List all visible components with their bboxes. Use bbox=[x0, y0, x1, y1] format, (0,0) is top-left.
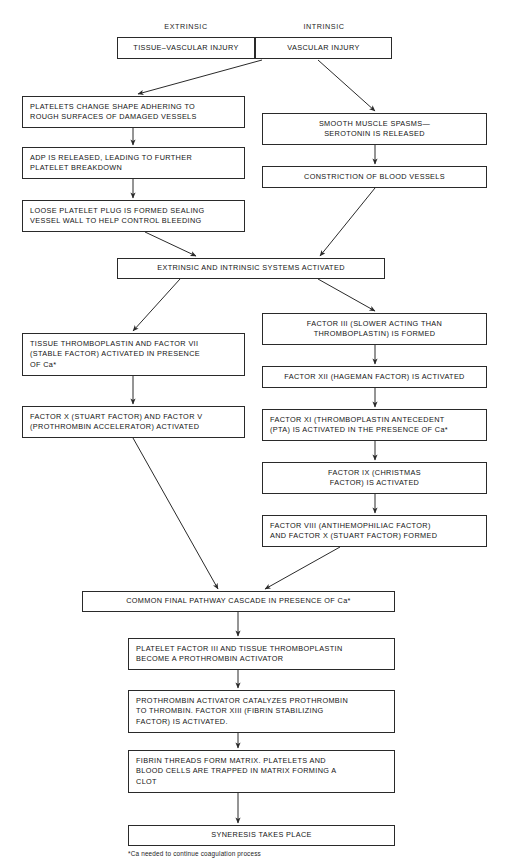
node-text-line: THROMBOPLASTIN) IS FORMED bbox=[314, 329, 436, 339]
column-header-intrinsic: INTRINSIC bbox=[255, 22, 393, 31]
node-factor-viii-and-factor-x-formed: FACTOR VIII (ANTIHEMOPHILIAC FACTOR)AND … bbox=[262, 515, 487, 547]
node-text-line: FACTOR III (SLOWER ACTING THAN bbox=[307, 319, 442, 329]
node-adp-released: ADP IS RELEASED, LEADING TO FURTHERPLATE… bbox=[22, 147, 245, 179]
node-common-final-pathway: COMMON FINAL PATHWAY CASCADE IN PRESENCE… bbox=[82, 591, 395, 612]
node-syneresis-takes-place: SYNERESIS TAKES PLACE bbox=[128, 825, 395, 846]
node-factor-xi-activated: FACTOR XI (THROMBOPLASTIN ANTECEDENT(PTA… bbox=[262, 409, 487, 441]
node-fibrin-threads-form-matrix: FIBRIN THREADS FORM MATRIX. PLATELETS AN… bbox=[128, 750, 395, 793]
node-platelet-factor-iii: PLATELET FACTOR III AND TISSUE THROMBOPL… bbox=[128, 638, 395, 670]
node-text-line: OF Ca* bbox=[30, 360, 238, 370]
node-text-line: BECOME A PROTHROMBIN ACTIVATOR bbox=[136, 654, 388, 664]
node-text-line: VASCULAR INJURY bbox=[287, 43, 359, 53]
node-text-line: TISSUE THROMBOPLASTIN AND FACTOR VII bbox=[30, 339, 238, 349]
node-smooth-muscle-spasms: SMOOTH MUSCLE SPASMS—SEROTONIN IS RELEAS… bbox=[262, 113, 487, 145]
node-constriction-blood-vessels: CONSTRICTION OF BLOOD VESSELS bbox=[262, 166, 487, 188]
coagulation-cascade-diagram: EXTRINSICINTRINSIC TISSUE–VASCULAR INJUR… bbox=[0, 0, 506, 868]
node-text-line: SYNERESIS TAKES PLACE bbox=[211, 830, 312, 840]
node-text-line: FACTOR XI (THROMBOPLASTIN ANTECEDENT bbox=[270, 415, 480, 425]
node-text-line: FACTOR) IS ACTIVATED bbox=[330, 478, 420, 488]
node-text-line: ADP IS RELEASED, LEADING TO FURTHER bbox=[30, 153, 238, 163]
node-text-line: PLATELET FACTOR III AND TISSUE THROMBOPL… bbox=[136, 644, 388, 654]
node-text-line: CLOT bbox=[136, 777, 388, 787]
node-text-line: PLATELET BREAKDOWN bbox=[30, 163, 238, 173]
node-factor-ix-activated: FACTOR IX (CHRISTMASFACTOR) IS ACTIVATED bbox=[262, 462, 487, 494]
node-text-line: BLOOD CELLS ARE TRAPPED IN MATRIX FORMIN… bbox=[136, 766, 388, 776]
node-text-line: ROUGH SURFACES OF DAMAGED VESSELS bbox=[30, 112, 238, 122]
node-text-line: (STABLE FACTOR) ACTIVATED IN PRESENCE bbox=[30, 349, 238, 359]
node-text-line: TO THROMBIN. FACTOR XIII (FIBRIN STABILI… bbox=[136, 706, 388, 716]
node-text-line: FIBRIN THREADS FORM MATRIX. PLATELETS AN… bbox=[136, 756, 388, 766]
node-text-line: FACTOR XII (HAGEMAN FACTOR) IS ACTIVATED bbox=[284, 372, 465, 382]
node-text-line: COMMON FINAL PATHWAY CASCADE IN PRESENCE… bbox=[126, 596, 351, 606]
node-factor-x-and-factor-v: FACTOR X (STUART FACTOR) AND FACTOR V(PR… bbox=[22, 406, 245, 438]
node-text-line: TISSUE–VASCULAR INJURY bbox=[133, 43, 238, 53]
node-factor-xii-activated: FACTOR XII (HAGEMAN FACTOR) IS ACTIVATED bbox=[262, 366, 487, 388]
node-text-line: PLATELETS CHANGE SHAPE ADHERING TO bbox=[30, 102, 238, 112]
node-factor-iii-formed: FACTOR III (SLOWER ACTING THANTHROMBOPLA… bbox=[262, 313, 487, 345]
edge-vascular-to-spasms bbox=[318, 60, 375, 111]
node-text-line: (PTA) IS ACTIVATED IN THE PRESENCE OF Ca… bbox=[270, 425, 480, 435]
edge-constriction-to-systems bbox=[320, 188, 375, 256]
node-text-line: CONSTRICTION OF BLOOD VESSELS bbox=[304, 172, 445, 182]
node-prothrombin-activator-catalyzes: PROTHROMBIN ACTIVATOR CATALYZES PROTHROM… bbox=[128, 690, 395, 733]
node-vascular-injury: VASCULAR INJURY bbox=[255, 37, 392, 59]
column-header-extrinsic: EXTRINSIC bbox=[117, 22, 255, 31]
node-loose-platelet-plug: LOOSE PLATELET PLUG IS FORMED SEALINGVES… bbox=[22, 200, 245, 232]
node-platelets-change-shape: PLATELETS CHANGE SHAPE ADHERING TOROUGH … bbox=[22, 96, 245, 128]
node-text-line: AND FACTOR X (STUART FACTOR) FORMED bbox=[270, 531, 480, 541]
footnote: *Ca needed to continue coagulation proce… bbox=[128, 850, 261, 857]
node-text-line: EXTRINSIC AND INTRINSIC SYSTEMS ACTIVATE… bbox=[157, 263, 345, 273]
node-tissue-vascular-injury: TISSUE–VASCULAR INJURY bbox=[117, 37, 255, 59]
node-text-line: PROTHROMBIN ACTIVATOR CATALYZES PROTHROM… bbox=[136, 696, 388, 706]
node-text-line: LOOSE PLATELET PLUG IS FORMED SEALING bbox=[30, 206, 238, 216]
node-text-line: FACTOR) IS ACTIVATED. bbox=[136, 717, 388, 727]
node-text-line: (PROTHROMBIN ACCELERATOR) ACTIVATED bbox=[30, 422, 238, 432]
node-text-line: FACTOR VIII (ANTIHEMOPHILIAC FACTOR) bbox=[270, 521, 480, 531]
node-text-line: VESSEL WALL TO HELP CONTROL BLEEDING bbox=[30, 216, 238, 226]
node-tissue-thromboplastin-factor-vii: TISSUE THROMBOPLASTIN AND FACTOR VII(STA… bbox=[22, 333, 245, 376]
edge-plug-to-systems bbox=[145, 232, 196, 256]
node-text-line: FACTOR IX (CHRISTMAS bbox=[328, 468, 421, 478]
node-text-line: FACTOR X (STUART FACTOR) AND FACTOR V bbox=[30, 412, 238, 422]
edge-systems-to-factor-iii bbox=[318, 279, 375, 311]
edge-factorx-to-common bbox=[133, 438, 218, 589]
node-extrinsic-intrinsic-activated: EXTRINSIC AND INTRINSIC SYSTEMS ACTIVATE… bbox=[117, 258, 385, 279]
edge-vascular-to-platelets bbox=[138, 60, 262, 94]
node-text-line: SMOOTH MUSCLE SPASMS— bbox=[319, 119, 430, 129]
edge-factorviii-to-common bbox=[265, 547, 340, 589]
node-text-line: SEROTONIN IS RELEASED bbox=[324, 129, 425, 139]
edge-systems-to-tissue-thromb bbox=[133, 279, 180, 331]
